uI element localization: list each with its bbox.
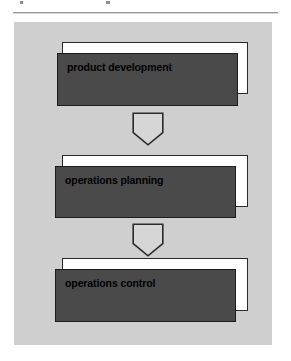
flowchart-node-operations-planning[interactable]: operations planning xyxy=(55,155,248,218)
flowchart-node-product-development[interactable]: product development xyxy=(57,42,248,106)
node-label: product development xyxy=(67,61,172,73)
node-body: operations planning xyxy=(55,166,236,218)
arrow-down-icon xyxy=(132,223,164,257)
cropped-text-remnant xyxy=(20,1,23,4)
cropped-text-remnant xyxy=(106,1,110,4)
node-body: operations control xyxy=(55,269,236,322)
diagram-canvas: product development operations planning … xyxy=(0,0,291,361)
node-label: operations control xyxy=(65,277,155,289)
arrow-down-icon xyxy=(132,112,164,146)
flowchart-node-operations-control[interactable]: operations control xyxy=(55,258,248,322)
node-label: operations planning xyxy=(65,174,163,186)
node-body: product development xyxy=(57,53,238,106)
horizontal-rule-shadow xyxy=(13,13,278,14)
